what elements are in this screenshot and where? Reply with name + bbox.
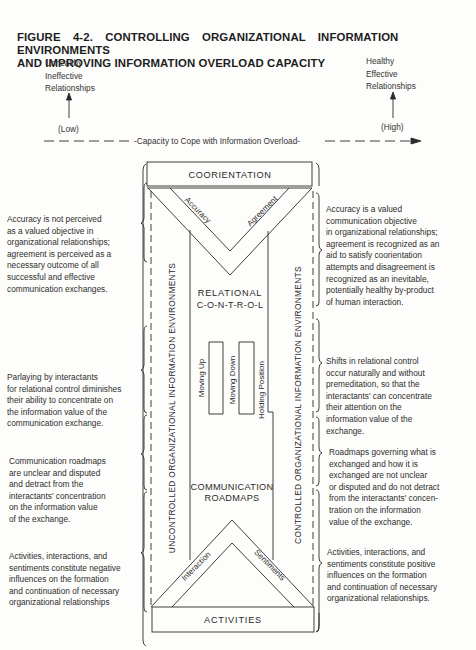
right-note-roadmaps: Roadmaps governing what is exchanged and… bbox=[329, 447, 439, 528]
left-note-relational-control: Parlaying by interactants for relational… bbox=[7, 372, 121, 430]
note-line: organizational relationships. bbox=[327, 593, 437, 605]
right-note-relational-control: Shifts in relational control occur natur… bbox=[326, 356, 432, 437]
note-line: Roadmaps governing what is bbox=[329, 447, 439, 459]
note-line: potentially healthy by-product bbox=[326, 285, 439, 297]
note-line: successful and effective bbox=[7, 272, 111, 284]
sentiments-label: Sentiments bbox=[252, 548, 287, 583]
note-line: sentiments constitute positive bbox=[327, 559, 437, 571]
note-line: from the interactants' concen- bbox=[329, 493, 439, 505]
note-line: as a valued objective in bbox=[7, 226, 111, 238]
note-line: Shifts in relational control bbox=[326, 356, 432, 368]
right-note-coorientation: Accuracy is a valued communication objec… bbox=[326, 204, 439, 308]
note-line: are unclear and disputed bbox=[9, 468, 106, 480]
note-line: of human interaction. bbox=[326, 297, 439, 309]
note-line: attempts and disagreement is bbox=[326, 262, 439, 274]
note-line: of the exchange. bbox=[9, 514, 106, 526]
right-brace-icons bbox=[316, 193, 322, 632]
note-line: influences on the formation bbox=[327, 570, 437, 582]
note-line: recognized as an inevitable, bbox=[326, 274, 439, 286]
note-line: and continuation of necessary bbox=[9, 586, 121, 598]
note-line: and detract from the bbox=[9, 479, 106, 491]
note-line: organizational relationships; bbox=[7, 237, 111, 249]
note-line: interactants' concentration bbox=[9, 491, 106, 503]
note-line: occur naturally and without bbox=[326, 368, 432, 380]
note-line: agreement is recognized as an bbox=[326, 239, 439, 251]
note-line: information value of the bbox=[326, 414, 432, 426]
note-line: Communication roadmaps bbox=[9, 456, 106, 468]
note-line: sentiments constitute negative bbox=[9, 563, 121, 575]
agreement-label: Agreement bbox=[245, 194, 280, 229]
note-line: Activities, interactions, and bbox=[327, 547, 437, 559]
note-line: in organizational relationships; bbox=[326, 227, 439, 239]
note-line: exchanged and how it is bbox=[329, 459, 439, 471]
note-line: interactants' can concentrate bbox=[326, 391, 432, 403]
uncontrolled-environments-label: UNCONTROLLED ORGANIZATIONAL INFORMATION … bbox=[167, 263, 177, 554]
arrowhead-icon bbox=[411, 138, 421, 144]
note-line: tration on the information bbox=[329, 505, 439, 517]
note-line: or disputed and do not detract bbox=[329, 482, 439, 494]
left-note-activities: Activities, interactions, and sentiments… bbox=[9, 551, 121, 609]
note-line: their ability to concentrate on bbox=[7, 395, 121, 407]
note-line: on the information value bbox=[9, 502, 106, 514]
communication-label: COMMUNICATION bbox=[191, 482, 274, 492]
note-line: communication objective bbox=[326, 216, 439, 228]
note-line: Accuracy is a valued bbox=[326, 204, 439, 216]
capacity-axis-arrow bbox=[44, 138, 421, 144]
activities-label: ACTIVITIES bbox=[204, 615, 262, 625]
right-up-arrow-icon bbox=[391, 92, 396, 118]
note-line: value of the exchange. bbox=[329, 517, 439, 529]
note-line: agreement is perceived as a bbox=[7, 249, 111, 261]
holding-position-label: Holding Position bbox=[257, 361, 266, 419]
note-line: Activities, interactions, and bbox=[9, 551, 121, 563]
control-label: C-O-N-T-R-O-L bbox=[197, 300, 264, 310]
note-line: for relational control diminishes bbox=[7, 384, 121, 396]
left-note-coorientation: Accuracy is not perceived as a valued ob… bbox=[7, 214, 111, 295]
left-up-arrow-icon bbox=[67, 93, 72, 118]
note-line: influences on the formation bbox=[9, 574, 121, 586]
relational-label: RELATIONAL bbox=[198, 288, 263, 298]
moving-up-label: Moving Up bbox=[197, 358, 206, 397]
note-line: the information value of the bbox=[7, 407, 121, 419]
right-note-activities: Activities, interactions, and sentiments… bbox=[327, 547, 437, 605]
note-line: their attention on the bbox=[326, 402, 432, 414]
moving-down-label: Moving Down bbox=[228, 356, 237, 404]
note-line: aid to satisfy coorientation bbox=[326, 250, 439, 262]
note-line: organizational relationships bbox=[9, 597, 121, 609]
note-line: exchange. bbox=[326, 426, 432, 438]
coorientation-label: COORIENTATION bbox=[189, 170, 272, 180]
note-line: and continuation of necessary bbox=[327, 582, 437, 594]
note-line: Parlaying by interactants bbox=[7, 372, 121, 384]
roadmaps-label: ROADMAPS bbox=[205, 493, 260, 503]
note-line: communication exchange. bbox=[7, 418, 121, 430]
note-line: necessary outcome of all bbox=[7, 260, 111, 272]
accuracy-label: Accuracy bbox=[183, 195, 213, 225]
interaction-label: Interaction bbox=[180, 550, 213, 583]
left-note-roadmaps: Communication roadmaps are unclear and d… bbox=[9, 456, 106, 526]
left-brace-icons bbox=[141, 183, 147, 612]
controlled-environments-label: CONTROLLED ORGANIZATIONAL INFORMATION EN… bbox=[293, 266, 303, 544]
note-line: exchanged are not unclear bbox=[329, 470, 439, 482]
note-line: communication exchanges. bbox=[7, 284, 111, 296]
note-line: Accuracy is not perceived bbox=[7, 214, 111, 226]
note-line: premeditation, so that the bbox=[326, 379, 432, 391]
